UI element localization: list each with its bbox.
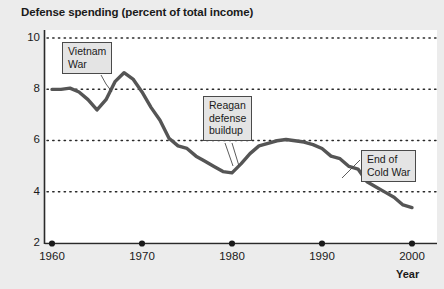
tick-dot-1970 (139, 240, 145, 246)
figure-container: Defense spending (percent of total incom… (0, 0, 444, 289)
annotation-reagan-defense-buildup: Reagan defense buildup (203, 96, 252, 141)
y-tick-label-8: 8 (14, 82, 40, 94)
y-tick-label-10: 10 (14, 31, 40, 43)
leader-line-reagan-b (232, 143, 239, 166)
y-tick-label-2: 2 (14, 236, 40, 248)
y-tick-label-4: 4 (14, 185, 40, 197)
tick-dot-1960 (49, 240, 55, 246)
x-tick-label-1970: 1970 (117, 250, 167, 262)
x-tick-label-1980: 1980 (207, 250, 257, 262)
x-tick-label-1990: 1990 (297, 250, 347, 262)
tick-dot-2000 (409, 240, 415, 246)
annotation-vietnam-war: Vietnam War (62, 42, 112, 74)
x-tick-label-2000: 2000 (387, 250, 437, 262)
tick-dot-1990 (319, 240, 325, 246)
leader-line-reagan-a (225, 143, 233, 166)
leader-line-vietnam-a (101, 75, 106, 84)
x-tick-label-1960: 1960 (27, 250, 77, 262)
tick-dot-1980 (229, 240, 235, 246)
y-tick-label-6: 6 (14, 133, 40, 145)
x-axis-title: Year (396, 268, 419, 280)
annotation-end-of-cold-war: End of Cold War (361, 150, 416, 182)
